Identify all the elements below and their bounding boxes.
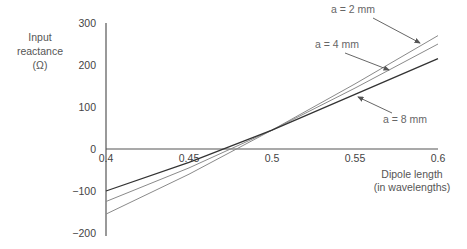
y-tick-label: −200	[72, 227, 96, 239]
x-tick-label: 0.6	[431, 152, 446, 164]
annotation-arrow	[373, 18, 420, 43]
y-tick-label: 100	[78, 101, 96, 113]
series-annotation-label: a = 2 mm	[331, 3, 375, 15]
series-annotation-label: a = 4 mm	[315, 38, 359, 50]
x-axis-title: (in wavelengths)	[374, 181, 450, 193]
x-tick-label: 0.55	[345, 152, 366, 164]
annotation-arrow	[358, 97, 392, 113]
annotation-arrow	[345, 53, 389, 70]
x-tick-label: 0.4	[99, 152, 114, 164]
series-annotations: a = 2 mma = 4 mma = 8 mm	[315, 3, 427, 125]
x-axis: 0.40.450.50.550.6	[99, 149, 446, 164]
y-tick-label: 0	[90, 143, 96, 155]
y-tick-label: 200	[78, 59, 96, 71]
y-axis-title: reactance	[17, 45, 63, 57]
y-axis-title: (Ω)	[33, 59, 48, 71]
x-axis-title: Dipole length	[381, 168, 442, 180]
y-tick-label: −100	[72, 185, 96, 197]
series-annotation-label: a = 8 mm	[383, 113, 427, 125]
x-tick-label: 0.5	[265, 152, 280, 164]
y-tick-label: 300	[78, 17, 96, 29]
reactance-chart: 3002001000−100−200 0.40.450.50.550.6 a =…	[0, 0, 467, 249]
y-axis: 3002001000−100−200	[72, 17, 106, 239]
y-axis-title: Input	[28, 31, 51, 43]
